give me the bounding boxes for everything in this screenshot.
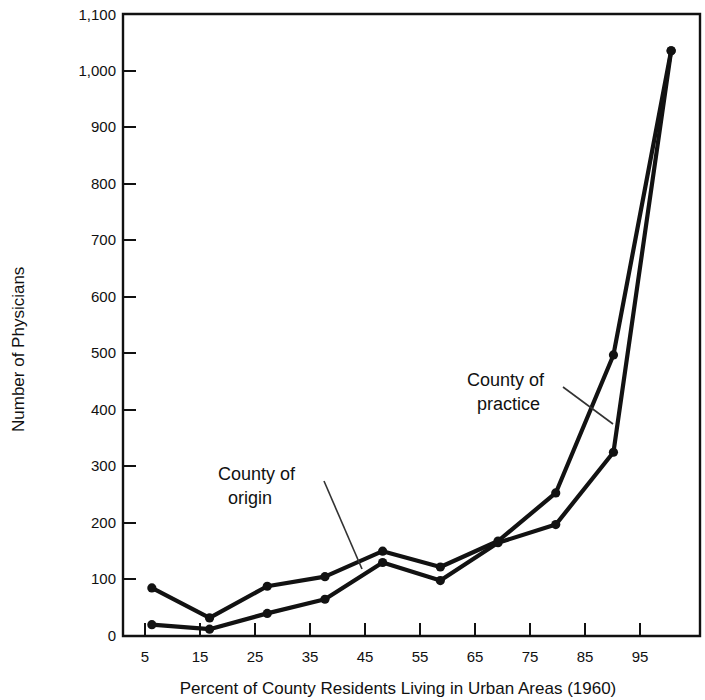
data-point: [378, 547, 387, 556]
x-tick-label-35: 35: [302, 648, 319, 665]
y-tick-label-900: 900: [91, 118, 116, 135]
data-point: [205, 613, 214, 622]
x-tick-label-55: 55: [412, 648, 429, 665]
data-point: [378, 558, 387, 567]
x-axis-tick-labels: 5 15 25 35 45 55 65 75 85 95: [141, 648, 649, 665]
data-point: [320, 595, 329, 604]
line-chart: 0 100 200 300 400 500 600 700 800 900 1,…: [0, 0, 705, 700]
plot-border: [123, 14, 700, 636]
data-point: [493, 538, 502, 547]
y-tick-label-100: 100: [91, 570, 116, 587]
x-tick-label-25: 25: [247, 648, 264, 665]
annotation-origin-line1: County of: [218, 464, 296, 484]
annotation-county-of-practice: County of practice: [467, 370, 545, 414]
y-tick-label-200: 200: [91, 514, 116, 531]
x-tick-label-45: 45: [357, 648, 374, 665]
annotation-origin-line2: origin: [228, 488, 272, 508]
annotation-practice-line1: County of: [467, 370, 545, 390]
data-point: [667, 46, 676, 55]
y-axis-title: Number of Physicians: [9, 267, 28, 432]
x-tick-label-15: 15: [192, 648, 209, 665]
x-tick-label-85: 85: [577, 648, 594, 665]
y-axis-ticks: [123, 71, 136, 636]
data-point: [147, 583, 156, 592]
data-point: [551, 488, 560, 497]
y-tick-label-500: 500: [91, 344, 116, 361]
data-point: [551, 520, 560, 529]
data-point: [320, 572, 329, 581]
y-tick-label-300: 300: [91, 457, 116, 474]
series-points-county-of-origin: [147, 46, 676, 634]
y-tick-label-700: 700: [91, 231, 116, 248]
data-point: [609, 448, 618, 457]
x-tick-label-95: 95: [632, 648, 649, 665]
axis-frame: [123, 14, 700, 636]
data-point: [436, 562, 445, 571]
chart-figure: 0 100 200 300 400 500 600 700 800 900 1,…: [0, 0, 705, 700]
y-axis-tick-labels: 0 100 200 300 400 500 600 700 800 900 1,…: [78, 6, 116, 644]
data-point: [147, 620, 156, 629]
data-point: [609, 350, 618, 359]
leader-line-county-of-origin: [324, 481, 362, 569]
data-point: [263, 582, 272, 591]
data-point: [205, 625, 214, 634]
series-line-county-of-practice: [152, 51, 671, 618]
x-tick-label-75: 75: [522, 648, 539, 665]
data-point: [263, 609, 272, 618]
y-tick-label-0: 0: [108, 627, 116, 644]
x-tick-label-5: 5: [141, 648, 149, 665]
annotation-practice-line2: practice: [477, 394, 540, 414]
data-point: [436, 576, 445, 585]
x-tick-label-65: 65: [467, 648, 484, 665]
y-tick-label-400: 400: [91, 401, 116, 418]
series-points-county-of-practice: [147, 46, 676, 622]
y-tick-label-600: 600: [91, 288, 116, 305]
y-tick-label-800: 800: [91, 175, 116, 192]
y-tick-label-1100: 1,100: [78, 6, 116, 23]
data-series-group: [147, 46, 676, 634]
x-axis-title: Percent of County Residents Living in Ur…: [180, 679, 617, 698]
annotation-county-of-origin: County of origin: [218, 464, 296, 508]
y-tick-label-1000: 1,000: [78, 62, 116, 79]
series-line-county-of-origin: [152, 51, 671, 629]
annotation-leaders: [324, 387, 613, 569]
